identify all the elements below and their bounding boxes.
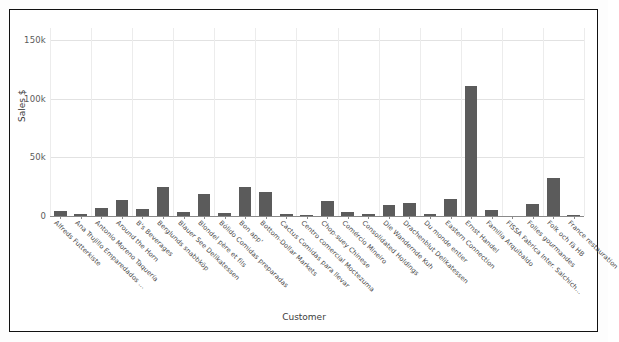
x-tick-mark: [389, 216, 390, 219]
bar[interactable]: [547, 178, 560, 216]
x-tick-mark: [574, 216, 575, 219]
x-tick-mark: [409, 216, 410, 219]
x-tick-mark: [471, 216, 472, 219]
x-tick-mark: [286, 216, 287, 219]
x-tick-mark: [122, 216, 123, 219]
x-tick-mark: [512, 216, 513, 219]
bar[interactable]: [383, 205, 396, 216]
y-tick-label: 50k: [30, 152, 46, 162]
gridline-vertical: [584, 28, 585, 216]
bar[interactable]: [465, 86, 478, 216]
x-tick-mark: [204, 216, 205, 219]
bar[interactable]: [321, 201, 334, 216]
x-tick-mark: [245, 216, 246, 219]
x-axis-line: [50, 216, 584, 217]
x-tick-mark: [266, 216, 267, 219]
y-axis-ticks: 050k100k150k: [0, 28, 46, 216]
y-tick-label: 0: [40, 211, 46, 221]
bar[interactable]: [239, 187, 252, 216]
x-tick-mark: [184, 216, 185, 219]
bar[interactable]: [136, 209, 149, 216]
x-tick-mark: [492, 216, 493, 219]
x-tick-mark: [225, 216, 226, 219]
x-tick-mark: [327, 216, 328, 219]
bar[interactable]: [444, 199, 457, 216]
bar[interactable]: [95, 208, 108, 216]
bar[interactable]: [198, 194, 211, 216]
x-tick-mark: [60, 216, 61, 219]
x-tick-mark: [553, 216, 554, 219]
x-tick-mark: [451, 216, 452, 219]
x-tick-mark: [163, 216, 164, 219]
y-tick-label: 100k: [24, 94, 46, 104]
x-tick-mark: [101, 216, 102, 219]
x-tick-mark: [430, 216, 431, 219]
x-tick-mark: [368, 216, 369, 219]
x-tick-mark: [307, 216, 308, 219]
bar[interactable]: [403, 203, 416, 217]
x-tick-mark: [142, 216, 143, 219]
bar[interactable]: [259, 192, 272, 216]
x-axis-labels: Alfreds FutterkisteAna Trujillo Empareda…: [50, 219, 584, 309]
y-axis-title: Sales $: [17, 89, 27, 122]
x-tick-mark: [533, 216, 534, 219]
bar[interactable]: [116, 200, 129, 216]
x-axis-title: Customer: [0, 312, 608, 322]
bar[interactable]: [157, 187, 170, 216]
x-tick-mark: [348, 216, 349, 219]
x-tick-mark: [81, 216, 82, 219]
bar-series: [50, 28, 584, 216]
y-tick-label: 150k: [24, 35, 46, 45]
bar[interactable]: [526, 204, 539, 216]
